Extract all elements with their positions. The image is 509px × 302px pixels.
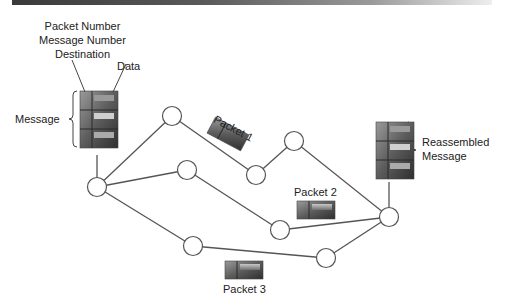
packet-3-icon xyxy=(225,261,263,279)
router-node xyxy=(285,132,304,151)
router-node xyxy=(247,166,266,185)
message-brace xyxy=(69,91,77,147)
message-number-label: Message Number xyxy=(30,33,135,47)
router-node xyxy=(271,221,290,240)
router-node xyxy=(163,107,182,126)
reassembled-line2: Message xyxy=(422,149,489,163)
reassembled-message-label: Reassembled Message xyxy=(422,135,489,163)
router-node xyxy=(184,237,203,256)
router-node xyxy=(88,178,107,197)
data-label: Data xyxy=(117,59,140,73)
packet-3-label: Packet 3 xyxy=(223,282,266,296)
header-label: Packet Number Message Number Destination xyxy=(30,19,135,61)
reassembled-line1: Reassembled xyxy=(422,135,489,149)
packet-2-label: Packet 2 xyxy=(294,185,337,199)
packet-2-icon xyxy=(297,201,335,219)
message-block-icon xyxy=(80,91,118,148)
router-node xyxy=(380,208,399,227)
router-node xyxy=(178,161,197,180)
packet-number-label: Packet Number xyxy=(30,19,135,33)
message-label: Message xyxy=(15,112,60,126)
reassembled-message-block-icon xyxy=(376,122,414,179)
router-node xyxy=(317,249,336,268)
